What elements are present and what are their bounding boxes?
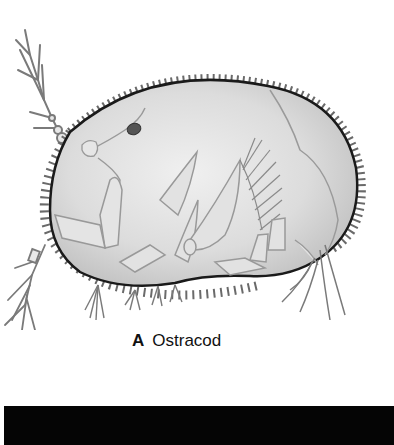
antenna-lower [5, 245, 45, 330]
leg-tufts [85, 285, 182, 320]
ostracod-illustration [0, 0, 394, 330]
ostracod-figure [0, 0, 394, 330]
footer-black-bar [4, 406, 394, 445]
caption-text: Ostracod [152, 331, 221, 350]
caption-letter: A [132, 331, 144, 350]
antenna-upper [16, 30, 67, 143]
figure-caption: AOstracod [132, 331, 221, 351]
